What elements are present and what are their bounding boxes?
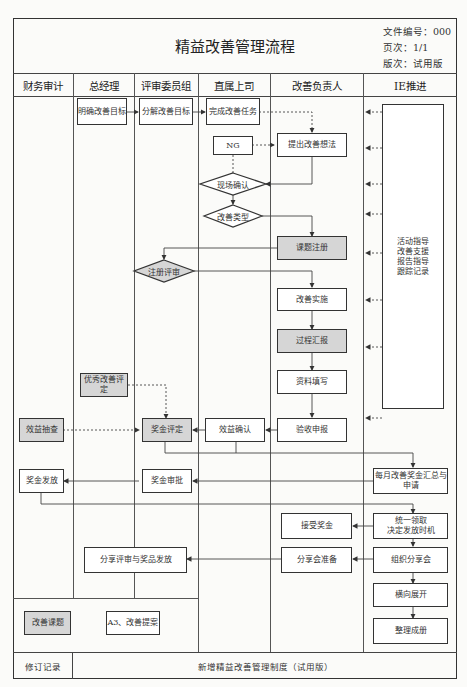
legend-grey-item: 改善课题 (24, 611, 71, 635)
node-fill-data[interactable]: 资料填写 (277, 370, 347, 394)
node-decompose-goal[interactable]: 分解改善目标 (139, 98, 193, 125)
arrow-task-to-idea (259, 112, 312, 132)
footer-content: 新增精益改善管理制度（试用版） (73, 652, 457, 679)
arrow-review-to-implement (194, 271, 312, 287)
node-bonus-approve[interactable]: 奖金审批 (142, 469, 192, 493)
node-compile-book[interactable]: 整理成册 (373, 618, 448, 644)
node-excellent-assess[interactable]: 优秀改善评定 (80, 373, 128, 397)
arrow-type-to-register (262, 216, 312, 236)
node-accept-bonus[interactable]: 接受奖金 (281, 513, 352, 539)
node-bonus-assess[interactable]: 奖金评定 (142, 418, 192, 442)
node-unified-collect[interactable]: 统一领取 决定发放时机 (373, 513, 448, 539)
ie-support-item: 改善支援 (397, 247, 429, 257)
arrow-register-to-review (164, 248, 278, 259)
node-complete-task[interactable]: 完成改善任务 (206, 98, 260, 125)
onsite-confirm-label: 现场确认 (200, 179, 266, 190)
node-organize-share[interactable]: 组织分享会 (373, 547, 448, 573)
node-monthly-summary[interactable]: 每月改善奖金汇总与申请 (373, 468, 448, 494)
improve-type-label: 改善类型 (204, 211, 262, 222)
arrow-idea-to-onsite (266, 156, 312, 184)
node-horizontal-expand[interactable]: 横向展开 (373, 583, 448, 607)
legend-white-item: A3、改善提案 (106, 611, 160, 635)
arrow-pay-to-collect (41, 492, 413, 513)
node-benefit-audit[interactable]: 效益抽查 (19, 418, 64, 442)
node-acceptance[interactable]: 验收申报 (277, 418, 347, 442)
register-review-label: 注册评审 (134, 266, 194, 277)
node-share-review[interactable]: 分享评审与奖品发放 (84, 547, 187, 573)
node-share-prepare[interactable]: 分享会准备 (281, 547, 352, 573)
node-process-report[interactable]: 过程汇报 (277, 329, 347, 353)
footer-label: 修订记录 (13, 652, 73, 679)
ie-support-item: 报告指导 (397, 257, 429, 267)
ie-support-item: 活动指导 (397, 237, 429, 247)
node-propose-idea[interactable]: 提出改善想法 (277, 133, 347, 157)
node-define-goal[interactable]: 明确改善目标 (77, 98, 127, 125)
node-ie-support[interactable]: 活动指导 改善支援 报告指导 跟踪记录 (382, 104, 444, 409)
node-topic-register[interactable]: 课题注册 (277, 236, 347, 260)
node-ng[interactable]: NG (213, 136, 253, 155)
node-bonus-pay[interactable]: 奖金发放 (19, 469, 64, 493)
node-implement[interactable]: 改善实施 (277, 288, 347, 311)
arrow-excellent-to-assess (128, 385, 166, 418)
node-benefit-confirm[interactable]: 效益确认 (205, 418, 265, 442)
ie-support-item: 跟踪记录 (397, 267, 429, 277)
arrow-assess-to-summary (165, 441, 413, 467)
